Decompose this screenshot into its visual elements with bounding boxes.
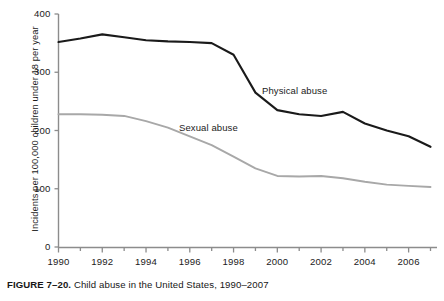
figure-caption: FIGURE 7–20. Child abuse in the United S… <box>7 279 269 290</box>
x-tick-label: 1992 <box>82 256 122 267</box>
figure-caption-number: FIGURE 7–20. <box>7 279 71 290</box>
line-chart-svg <box>0 0 444 272</box>
x-tick-label: 1990 <box>39 256 79 267</box>
x-tick-label: 2000 <box>257 256 297 267</box>
x-tick-label: 2002 <box>301 256 341 267</box>
chart-plot-area: Incidents per 100,000 children under 18 … <box>0 0 444 272</box>
series-line-physical-abuse <box>59 34 431 146</box>
y-tick-label: 100 <box>17 183 51 194</box>
series-label-sexual-abuse: Sexual abuse <box>179 122 238 133</box>
data-series-group <box>59 34 431 187</box>
series-label-physical-abuse: Physical abuse <box>262 85 327 96</box>
figure-caption-text: Child abuse in the United States, 1990–2… <box>71 279 268 290</box>
y-tick-label: 300 <box>17 66 51 77</box>
x-tick-label: 1994 <box>126 256 166 267</box>
x-tick-label: 2004 <box>345 256 385 267</box>
figure-container: Incidents per 100,000 children under 18 … <box>0 0 444 301</box>
x-tick-label: 1996 <box>170 256 210 267</box>
y-tick-label: 0 <box>17 241 51 252</box>
y-tick-label: 400 <box>17 8 51 19</box>
axis-lines <box>59 14 438 248</box>
series-line-sexual-abuse <box>59 114 431 187</box>
x-tick-label: 2006 <box>389 256 429 267</box>
x-tick-label: 1998 <box>214 256 254 267</box>
y-tick-label: 200 <box>17 125 51 136</box>
